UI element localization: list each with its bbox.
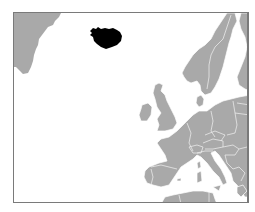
region-balearics [177, 178, 181, 181]
region-north-africa [161, 191, 217, 203]
region-ireland [139, 103, 152, 121]
region-iceland [90, 27, 122, 49]
region-denmark [196, 95, 204, 107]
region-greenland [14, 13, 61, 74]
map-title: Locator map of Iceland in Europe [0, 0, 1, 1]
region-sicily [213, 185, 221, 191]
region-great-britain [153, 83, 177, 131]
region-corsica [197, 161, 201, 169]
map-frame [13, 12, 249, 203]
region-scandinavia [182, 13, 237, 95]
map-canvas [14, 13, 249, 203]
region-sardinia [197, 171, 202, 183]
region-finland [237, 13, 249, 91]
